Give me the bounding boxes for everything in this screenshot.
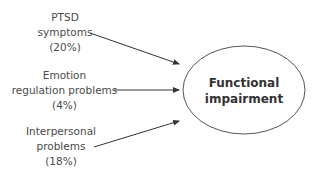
predictor-label-line: Emotion (2, 68, 127, 83)
predictor-interpersonal-problems: Interpersonal problems (18%) (16, 124, 106, 169)
predictor-label-line: regulation problems (2, 83, 127, 98)
outcome-label-line: Functional (183, 75, 305, 91)
outcome-functional-impairment: Functional impairment (183, 75, 305, 107)
outcome-label-line: impairment (183, 91, 305, 107)
arrow-interpersonal-to-impairment (94, 121, 179, 147)
predictor-ptsd-symptoms: PTSD symptoms (20%) (20, 10, 110, 55)
predictor-percent: (20%) (20, 40, 110, 55)
predictor-label-line: problems (16, 139, 106, 154)
predictor-label-line: PTSD (20, 10, 110, 25)
predictor-label-line: symptoms (20, 25, 110, 40)
predictor-percent: (4%) (2, 98, 127, 113)
predictor-percent: (18%) (16, 154, 106, 169)
predictor-label-line: Interpersonal (16, 124, 106, 139)
predictor-emotion-regulation: Emotion regulation problems (4%) (2, 68, 127, 113)
